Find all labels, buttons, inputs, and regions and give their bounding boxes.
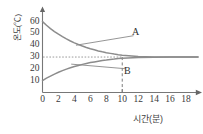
y-axis-arrow-icon — [40, 7, 45, 13]
series-label-a: A — [132, 26, 139, 37]
series-label-b: B — [124, 65, 131, 76]
axes-group — [40, 7, 202, 96]
leader-line-b — [71, 64, 125, 69]
plot-area — [0, 0, 203, 134]
series-line-b — [43, 57, 199, 81]
x-axis-title: 시간(분) — [133, 112, 163, 125]
leader-line-a — [76, 36, 134, 46]
x-axis-arrow-icon — [196, 90, 202, 96]
chart-figure: 온도(℃) 102030405060 024681012141618 A B 시… — [0, 0, 203, 134]
series-line-a — [43, 22, 199, 57]
